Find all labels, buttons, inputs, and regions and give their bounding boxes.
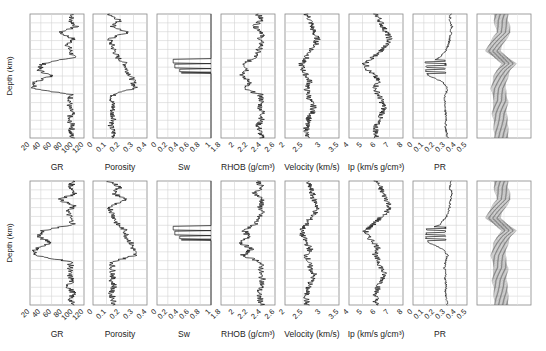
track-velocity: 22.533.5Velocity (km/s) — [277, 14, 340, 172]
tick-label: 2.5 — [291, 140, 305, 154]
tick-label: 4 — [341, 140, 350, 149]
tick-label: 2.5 — [291, 307, 305, 321]
tick-label: 2.4 — [249, 140, 263, 154]
tick-label: 6 — [368, 307, 377, 316]
track-title: Porosity — [105, 329, 136, 339]
tick-label: 3 — [313, 140, 322, 149]
track-title: PR — [434, 329, 446, 339]
track-velocity: 22.533.5Velocity (km/s) — [277, 181, 340, 339]
depth-axis-label: Depth (km) — [5, 56, 14, 96]
tick-label: 8 — [395, 307, 404, 316]
track-title: Sw — [178, 329, 191, 339]
track-gr: 20406080100120GR — [19, 181, 85, 339]
tick-label: 0 — [85, 140, 94, 149]
track-seismic — [477, 14, 531, 138]
tick-label: 2 — [227, 307, 236, 316]
track-rhob: 1.822.22.42.6RHOB (g/cm³) — [209, 181, 277, 339]
tick-label: 0.4 — [135, 140, 149, 154]
track-ip: 45678Ip (km/s g/cm³) — [341, 14, 404, 172]
tick-label: 2.2 — [236, 140, 250, 154]
track-title: PR — [434, 162, 446, 172]
track-rhob: 1.822.22.42.6RHOB (g/cm³) — [209, 14, 277, 172]
track-title: RHOB (g/cm³) — [221, 329, 275, 339]
track-title: Velocity (km/s) — [284, 329, 339, 339]
track-title: Ip (km/s g/cm³) — [348, 162, 405, 172]
bottom-row: Depth (km)20406080100120GR00.10.20.30.4P… — [5, 181, 531, 339]
track-pr: 00.10.20.30.40.5PR — [405, 14, 468, 172]
tick-label: 2 — [277, 140, 286, 149]
tick-label: 0.1 — [94, 307, 108, 321]
tick-label: 2.6 — [263, 140, 277, 154]
track-sw: 00.20.40.60.81Sw — [149, 181, 212, 339]
track-sw: 00.20.40.60.81Sw — [149, 14, 212, 172]
track-title: GR — [51, 162, 64, 172]
track-seismic — [477, 181, 531, 305]
track-title: RHOB (g/cm³) — [221, 162, 275, 172]
tick-label: 3 — [313, 307, 322, 316]
tick-label: 4 — [341, 307, 350, 316]
tick-label: 5 — [355, 140, 364, 149]
tick-label: 0.1 — [94, 140, 108, 154]
tick-label: 0.5 — [455, 307, 469, 321]
tick-label: 0.8 — [188, 140, 202, 154]
track-porosity: 00.10.20.30.4Porosity — [85, 14, 148, 172]
top-row: Depth (km)20406080100120GR00.10.20.30.4P… — [5, 14, 531, 172]
tick-label: 1.8 — [209, 307, 223, 321]
tick-label: 0.5 — [455, 140, 469, 154]
tick-label: 5 — [355, 307, 364, 316]
tick-label: 2.6 — [263, 307, 277, 321]
track-title: Sw — [178, 162, 191, 172]
tick-label: 0.3 — [121, 307, 135, 321]
tick-label: 0.2 — [108, 140, 122, 154]
tick-label: 7 — [382, 307, 391, 316]
tick-label: 0.8 — [188, 307, 202, 321]
track-title: Ip (km/s g/cm³) — [348, 329, 405, 339]
well-log-figure: Depth (km)20406080100120GR00.10.20.30.4P… — [0, 0, 546, 351]
tick-label: 2.4 — [249, 307, 263, 321]
track-gr: 20406080100120GR — [19, 14, 85, 172]
tick-label: 0.4 — [135, 307, 149, 321]
track-title: Velocity (km/s) — [284, 162, 339, 172]
tick-label: 2.2 — [236, 307, 250, 321]
tick-label: 0.3 — [121, 140, 135, 154]
depth-axis-label: Depth (km) — [5, 223, 14, 263]
tick-label: 7 — [382, 140, 391, 149]
tick-label: 1.8 — [209, 140, 223, 154]
track-pr: 00.10.20.30.40.5PR — [405, 181, 468, 339]
track-title: Porosity — [105, 162, 136, 172]
tick-label: 2 — [277, 307, 286, 316]
tick-label: 3.5 — [327, 140, 341, 154]
tick-label: 0.2 — [108, 307, 122, 321]
tick-label: 8 — [395, 140, 404, 149]
well-log-chart: Depth (km)20406080100120GR00.10.20.30.4P… — [0, 0, 546, 351]
track-porosity: 00.10.20.30.4Porosity — [85, 181, 148, 339]
track-title: GR — [51, 329, 64, 339]
tick-label: 6 — [368, 140, 377, 149]
tick-label: 120 — [70, 307, 85, 322]
tick-label: 2 — [227, 140, 236, 149]
tick-label: 3.5 — [327, 307, 341, 321]
tick-label: 120 — [70, 140, 85, 155]
tick-label: 0 — [85, 307, 94, 316]
track-ip: 45678Ip (km/s g/cm³) — [341, 181, 404, 339]
